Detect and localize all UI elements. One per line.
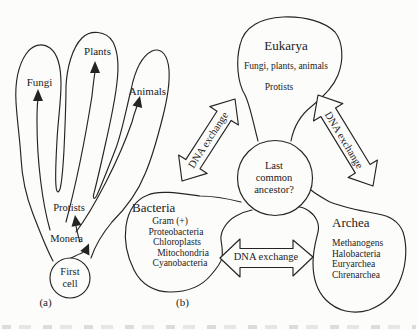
cropped-caption-remnant <box>2 325 416 329</box>
panel-a-label: (a) <box>39 297 51 309</box>
bacteria-item: Mitochondria <box>157 249 209 259</box>
eukarya-title: Eukarya <box>264 39 307 53</box>
ancestor-label: Last common ancestor? <box>254 160 294 196</box>
plants-label: Plants <box>84 46 111 58</box>
panel-b-label: (b) <box>176 297 189 309</box>
bacteria-title: Bacteria <box>132 201 175 215</box>
eukarya-members: Fungi, plants, animals <box>244 62 328 72</box>
bacteria-item: Chloroplasts <box>153 238 201 248</box>
bacteria-item: Gram (+) <box>152 217 188 227</box>
protists-label: Protists <box>53 202 85 213</box>
bacteria-item: Cyanobacteria <box>153 259 208 269</box>
archea-item: Methanogens <box>332 239 383 249</box>
archea-item: Chrenarchea <box>332 271 380 281</box>
archea-item: Halobacteria <box>332 250 381 260</box>
animals-arrowhead <box>133 96 143 108</box>
hand-outline <box>16 32 169 261</box>
figure-canvas: Fungi Plants Animals Protists Monera Fir… <box>0 0 418 330</box>
dna-exchange-label-bottom: DNA exchange <box>234 251 298 262</box>
fungi-label: Fungi <box>27 77 53 89</box>
first-cell-label: First cell <box>60 266 79 290</box>
monera-label: Monera <box>50 233 83 244</box>
animals-label: Animals <box>129 86 166 98</box>
plants-arrowhead <box>90 61 100 73</box>
archea-item: Euryarchea <box>332 260 375 270</box>
protists-arrowhead <box>72 215 82 227</box>
archea-title: Archea <box>332 216 370 230</box>
bacteria-item: Proteobacteria <box>149 228 204 238</box>
eukarya-protists: Protists <box>265 83 294 93</box>
fungi-arrowhead <box>33 89 43 101</box>
